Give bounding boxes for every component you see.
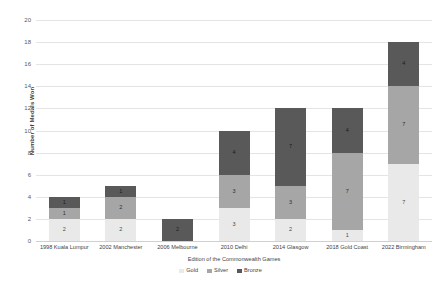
- bar-segment-value: 7: [346, 189, 349, 195]
- bar-segment-gold[interactable]: 2: [275, 219, 306, 241]
- x-axis-tick-label: 2014 Glasgow: [262, 244, 319, 250]
- bar-segment-silver[interactable]: 3: [219, 175, 250, 208]
- y-axis-tick-label: 0: [28, 238, 31, 244]
- chart-legend: GoldSilverBronze: [0, 268, 441, 274]
- bar-segment-value: 2: [289, 227, 292, 233]
- legend-label: Silver: [214, 268, 228, 274]
- bar-stack[interactable]: 221: [105, 186, 136, 241]
- bar-segment-value: 7: [289, 144, 292, 150]
- y-axis-tick-label: 10: [24, 128, 31, 134]
- x-axis-tick-label: 2018 Gold Coast: [319, 244, 376, 250]
- bar-segment-gold[interactable]: 2: [49, 219, 80, 241]
- legend-swatch-icon: [207, 269, 212, 274]
- legend-swatch-icon: [179, 269, 184, 274]
- bar-segment-value: 2: [119, 205, 122, 211]
- legend-item-silver[interactable]: Silver: [207, 268, 228, 274]
- bar-segment-value: 7: [402, 122, 405, 128]
- bar-stack[interactable]: 334: [219, 131, 250, 241]
- bar-segment-value: 1: [346, 233, 349, 239]
- y-axis-tick-label: 16: [24, 61, 31, 67]
- y-axis-tick-label: 2: [28, 216, 31, 222]
- bar-segment-bronze[interactable]: 1: [105, 186, 136, 197]
- legend-swatch-icon: [237, 269, 242, 274]
- bar-segment-silver[interactable]: 7: [388, 86, 419, 163]
- y-axis-tick-label: 18: [24, 39, 31, 45]
- y-axis-tick-label: 20: [24, 17, 31, 23]
- bar-segment-gold[interactable]: 3: [219, 208, 250, 241]
- x-axis-tick-label: 2002 Manchester: [93, 244, 150, 250]
- bar-segment-bronze[interactable]: 2: [162, 219, 193, 241]
- bar-segment-value: 3: [289, 200, 292, 206]
- bar-segment-value: 3: [232, 222, 235, 228]
- bar-segment-gold[interactable]: 7: [388, 164, 419, 241]
- legend-item-gold[interactable]: Gold: [179, 268, 198, 274]
- x-axis-tick-labels: 1998 Kuala Lumpur2002 Manchester2006 Mel…: [36, 244, 432, 250]
- bar-stack[interactable]: 211: [49, 197, 80, 241]
- legend-label: Gold: [186, 268, 198, 274]
- y-axis-tick-label: 6: [28, 172, 31, 178]
- legend-label: Bronze: [244, 268, 262, 274]
- bar-segment-silver[interactable]: 1: [49, 208, 80, 219]
- gridline: 0: [36, 241, 432, 242]
- x-axis-tick-label: 2010 Delhi: [206, 244, 263, 250]
- x-axis-title: Edition of the Commonwealth Games: [36, 256, 432, 262]
- bar-segment-value: 4: [402, 61, 405, 67]
- bar-segment-silver[interactable]: 2: [105, 197, 136, 219]
- x-axis-tick-label: 2006 Melbourne: [149, 244, 206, 250]
- bar-stack[interactable]: 174: [332, 108, 363, 241]
- bar-segment-value: 1: [63, 200, 66, 206]
- bar-slot: 334: [206, 20, 263, 241]
- plot-area: 02468101214161820 2112212334237174774: [36, 20, 432, 241]
- y-axis-tick-label: 4: [28, 194, 31, 200]
- bar-segment-silver[interactable]: 7: [332, 153, 363, 230]
- y-axis-tick-label: 14: [24, 83, 31, 89]
- bar-stack[interactable]: 2: [162, 219, 193, 241]
- bar-segment-value: 2: [176, 227, 179, 233]
- y-axis-tick-label: 8: [28, 150, 31, 156]
- bar-segment-value: 7: [402, 200, 405, 206]
- bar-slot: 2: [149, 20, 206, 241]
- bar-series-group: 2112212334237174774: [36, 20, 432, 241]
- bar-segment-value: 2: [119, 227, 122, 233]
- bar-segment-value: 3: [232, 189, 235, 195]
- y-axis-tick-label: 12: [24, 105, 31, 111]
- x-axis-tick-label: 2022 Birmingham: [375, 244, 432, 250]
- bar-segment-value: 1: [119, 189, 122, 195]
- bar-slot: 237: [262, 20, 319, 241]
- legend-item-bronze[interactable]: Bronze: [237, 268, 262, 274]
- bar-segment-value: 2: [63, 227, 66, 233]
- x-axis-tick-label: 1998 Kuala Lumpur: [36, 244, 93, 250]
- bar-segment-value: 4: [232, 150, 235, 156]
- bar-segment-value: 1: [63, 211, 66, 217]
- bar-slot: 211: [36, 20, 93, 241]
- bar-segment-silver[interactable]: 3: [275, 186, 306, 219]
- bar-segment-gold[interactable]: 1: [332, 230, 363, 241]
- bar-slot: 221: [93, 20, 150, 241]
- bar-segment-bronze[interactable]: 1: [49, 197, 80, 208]
- bar-slot: 174: [319, 20, 376, 241]
- bar-segment-bronze[interactable]: 4: [332, 108, 363, 152]
- bar-stack[interactable]: 237: [275, 108, 306, 241]
- medals-stacked-bar-chart: Number of Medals Won 02468101214161820 2…: [0, 0, 441, 282]
- bar-segment-value: 4: [346, 128, 349, 134]
- bar-stack[interactable]: 774: [388, 42, 419, 241]
- bar-segment-bronze[interactable]: 4: [219, 131, 250, 175]
- bar-slot: 774: [375, 20, 432, 241]
- bar-segment-bronze[interactable]: 4: [388, 42, 419, 86]
- bar-segment-gold[interactable]: 2: [105, 219, 136, 241]
- bar-segment-bronze[interactable]: 7: [275, 108, 306, 185]
